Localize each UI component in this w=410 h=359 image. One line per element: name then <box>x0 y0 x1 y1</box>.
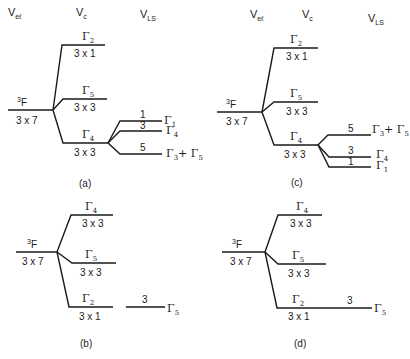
svg-text:1: 1 <box>348 156 354 167</box>
svg-text:Γ5: Γ5 <box>85 248 97 263</box>
svg-text:3 x 1: 3 x 1 <box>288 311 310 322</box>
svg-text:Γ4: Γ4 <box>166 124 179 139</box>
panel-b: 3F 3 x 7 Γ4 3 x 3 Γ5 3 x 3 Γ2 3 x 1 3 Γ5… <box>16 200 179 349</box>
svg-text:Γ4: Γ4 <box>290 130 303 145</box>
svg-text:3 x 1: 3 x 1 <box>74 48 96 59</box>
panel-a: 3F 3 x 7 Γ2 3 x 1 Γ5 3 x 3 Γ4 3 x 3 1 3 … <box>8 30 203 189</box>
svg-text:Γ3+ Γ5: Γ3+ Γ5 <box>372 123 409 138</box>
svg-text:3 x 3: 3 x 3 <box>82 218 104 229</box>
svg-text:Γ5: Γ5 <box>167 302 179 317</box>
svg-text:3F: 3F <box>17 96 27 108</box>
svg-text:Veℓ: Veℓ <box>250 8 264 22</box>
caption-c: (c) <box>291 177 303 188</box>
svg-text:3F: 3F <box>27 238 37 250</box>
svg-text:1: 1 <box>140 109 146 120</box>
svg-text:3 x 3: 3 x 3 <box>284 149 306 160</box>
svg-text:3 x 7: 3 x 7 <box>16 115 38 126</box>
svg-text:Veℓ: Veℓ <box>8 6 22 20</box>
svg-text:5: 5 <box>348 123 354 134</box>
svg-text:Γ3+ Γ5: Γ3+ Γ5 <box>166 147 203 162</box>
svg-text:3 x 1: 3 x 1 <box>286 51 308 62</box>
caption-b: (b) <box>80 338 92 349</box>
svg-text:Vc: Vc <box>76 6 87 20</box>
svg-text:3F: 3F <box>226 98 236 110</box>
svg-text:3: 3 <box>142 294 148 305</box>
svg-text:3 x 3: 3 x 3 <box>74 102 96 113</box>
svg-text:Γ2: Γ2 <box>82 30 94 45</box>
svg-text:3 x 7: 3 x 7 <box>230 256 252 267</box>
svg-text:VLS: VLS <box>140 8 156 22</box>
svg-text:3 x 1: 3 x 1 <box>79 311 101 322</box>
caption-a: (a) <box>79 178 91 189</box>
svg-text:3 x 3: 3 x 3 <box>286 106 308 117</box>
column-headers-right: Veℓ Vc VLS <box>250 8 384 26</box>
svg-text:Γ5: Γ5 <box>374 302 386 317</box>
svg-text:5: 5 <box>140 142 146 153</box>
svg-text:VLS: VLS <box>368 12 384 26</box>
svg-text:Γ2: Γ2 <box>292 293 304 308</box>
svg-text:Γ5: Γ5 <box>82 84 94 99</box>
caption-d: (d) <box>294 338 306 349</box>
svg-text:3 x 3: 3 x 3 <box>288 268 310 279</box>
svg-text:3: 3 <box>348 145 354 156</box>
svg-text:3 x 3: 3 x 3 <box>290 218 312 229</box>
svg-text:3 x 3: 3 x 3 <box>74 147 96 158</box>
energy-level-diagram: Veℓ Vc VLS Veℓ Vc VLS 3F 3 x 7 Γ2 3 x 1 … <box>0 0 410 359</box>
svg-text:Γ4: Γ4 <box>85 200 98 215</box>
svg-text:Γ4: Γ4 <box>296 200 309 215</box>
svg-text:Γ2: Γ2 <box>290 33 302 48</box>
svg-text:3 x 3: 3 x 3 <box>80 267 102 278</box>
svg-text:Γ4: Γ4 <box>82 128 95 143</box>
svg-text:Γ2: Γ2 <box>82 292 94 307</box>
svg-text:3: 3 <box>140 120 146 131</box>
column-headers-left: Veℓ Vc VLS <box>8 6 156 22</box>
panel-d: 3F 3 x 7 Γ4 3 x 3 Γ5 3 x 3 Γ2 3 x 1 3 Γ5… <box>222 200 386 349</box>
svg-text:3 x 7: 3 x 7 <box>226 116 248 127</box>
svg-text:Γ5: Γ5 <box>292 249 304 264</box>
svg-text:3: 3 <box>347 295 353 306</box>
svg-text:3F: 3F <box>232 238 242 250</box>
svg-text:3 x 7: 3 x 7 <box>22 256 44 267</box>
panel-c: 3F 3 x 7 Γ2 3 x 1 Γ5 3 x 3 Γ4 3 x 3 5 3 … <box>217 33 409 188</box>
svg-text:Γ5: Γ5 <box>290 87 302 102</box>
svg-text:Vc: Vc <box>302 8 313 22</box>
